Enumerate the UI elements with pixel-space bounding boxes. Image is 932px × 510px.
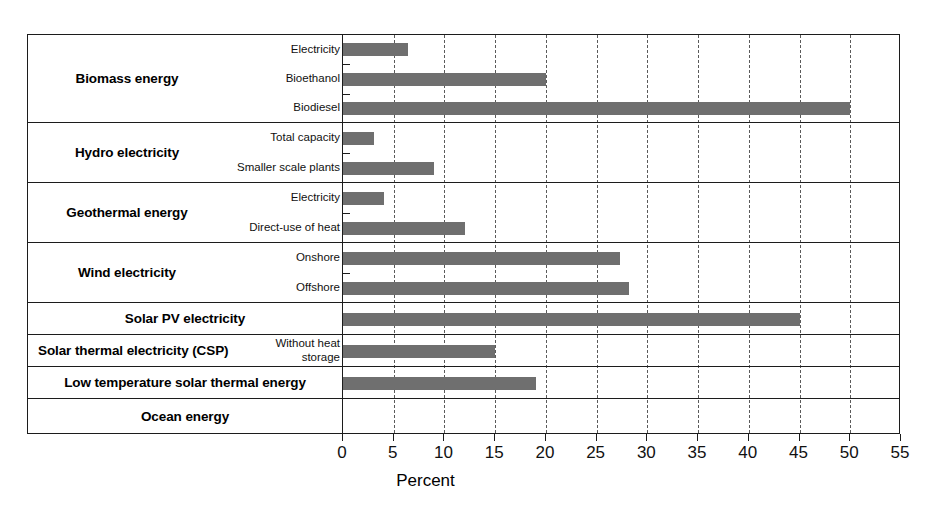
x-tick-20: [545, 434, 546, 441]
category-group: Wind electricityOnshoreOffshore: [28, 243, 899, 303]
x-tick-30: [646, 434, 647, 441]
x-tick-label-35: 35: [688, 443, 707, 463]
bar: [343, 252, 620, 265]
x-tick-50: [849, 434, 850, 441]
bar: [343, 313, 800, 326]
x-tick-10: [443, 434, 444, 441]
x-tick-label-25: 25: [586, 443, 605, 463]
x-tick-label-10: 10: [434, 443, 453, 463]
bar: [343, 377, 536, 390]
x-tick-label-30: 30: [637, 443, 656, 463]
x-tick-label-5: 5: [388, 443, 397, 463]
x-tick-label-0: 0: [337, 443, 346, 463]
sub-row-label: Direct-use of heat: [249, 221, 340, 235]
x-tick-label-50: 50: [840, 443, 859, 463]
x-tick-55: [900, 434, 901, 441]
bar: [343, 73, 546, 86]
sub-row-tick: [343, 153, 350, 154]
x-tick-0: [342, 434, 343, 441]
sub-row-label: Total capacity: [270, 131, 340, 145]
x-axis: 0510152025303540455055 Percent: [27, 434, 900, 510]
sub-row-label: Smaller scale plants: [237, 161, 340, 175]
sub-rows: [28, 367, 899, 398]
sub-row-label: Offshore: [296, 281, 340, 295]
sub-rows: OnshoreOffshore: [28, 243, 899, 302]
category-group: Hydro electricityTotal capacitySmaller s…: [28, 123, 899, 183]
sub-row-label: Bioethanol: [286, 72, 340, 86]
sub-row-tick: [343, 94, 350, 95]
bar: [343, 102, 850, 115]
sub-rows: Without heat storage: [28, 335, 899, 366]
bar: [343, 192, 384, 205]
x-tick-25: [596, 434, 597, 441]
sub-rows: ElectricityBioethanolBiodiesel: [28, 35, 899, 122]
sub-row-label: Onshore: [296, 251, 340, 265]
x-tick-5: [393, 434, 394, 441]
x-axis-title-label: Percent: [396, 471, 455, 491]
x-tick-40: [748, 434, 749, 441]
sub-row-label: Electricity: [291, 43, 340, 57]
category-group: Biomass energyElectricityBioethanolBiodi…: [28, 35, 899, 123]
x-tick-15: [494, 434, 495, 441]
x-tick-45: [799, 434, 800, 441]
x-axis-title: Percent: [27, 471, 900, 491]
x-tick-35: [697, 434, 698, 441]
x-tick-label-15: 15: [485, 443, 504, 463]
sub-row-label: Biodiesel: [293, 102, 340, 116]
category-group: Solar PV electricity: [28, 303, 899, 335]
sub-rows: ElectricityDirect-use of heat: [28, 183, 899, 242]
category-group: Ocean energy: [28, 399, 899, 435]
sub-row-tick: [343, 64, 350, 65]
bar: [343, 43, 408, 56]
bar: [343, 162, 434, 175]
sub-row-label: Without heat storage: [248, 337, 340, 364]
sub-rows: Total capacitySmaller scale plants: [28, 123, 899, 182]
sub-rows: [28, 399, 899, 435]
sub-row-tick: [343, 213, 350, 214]
x-tick-label-55: 55: [891, 443, 910, 463]
category-group: Low temperature solar thermal energy: [28, 367, 899, 399]
x-tick-label-45: 45: [789, 443, 808, 463]
bar: [343, 222, 465, 235]
bar: [343, 282, 629, 295]
sub-rows: [28, 303, 899, 334]
sub-row-label: Electricity: [291, 191, 340, 205]
bar: [343, 132, 374, 145]
bar: [343, 345, 495, 358]
category-group: Solar thermal electricity (CSP)Without h…: [28, 335, 899, 367]
x-tick-label-40: 40: [738, 443, 757, 463]
plot-frame: Biomass energyElectricityBioethanolBiodi…: [27, 34, 900, 434]
sub-row-tick: [343, 273, 350, 274]
x-tick-label-20: 20: [535, 443, 554, 463]
category-group: Geothermal energyElectricityDirect-use o…: [28, 183, 899, 243]
bar-chart: Biomass energyElectricityBioethanolBiodi…: [0, 0, 932, 510]
